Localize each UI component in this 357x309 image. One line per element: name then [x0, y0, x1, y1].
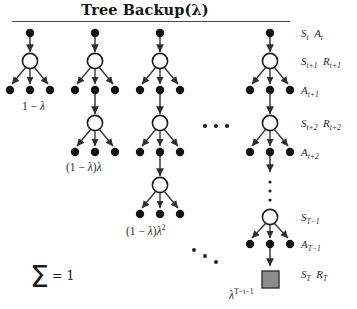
vertical-ellipsis-dot [268, 180, 271, 183]
sum-equals-value: = 1 [49, 268, 74, 283]
state-circle [152, 53, 167, 68]
leaf-dot [111, 86, 119, 94]
tree-column-2 [71, 29, 119, 156]
weight-label-1: 1 − λ [22, 100, 45, 112]
label-state-T1: ST−1 [301, 211, 320, 226]
tree-column-last [246, 29, 294, 288]
state-circle [87, 53, 102, 68]
state-circle [87, 115, 102, 130]
leaf-dot [156, 86, 164, 94]
leaf-dot [246, 148, 254, 156]
horizontal-ellipsis [203, 124, 229, 128]
weight-label-3: (1 − λ)λ2 [126, 223, 166, 237]
root-dot [91, 29, 99, 37]
label-action-t1: At+1 [301, 84, 319, 99]
terminal-square [262, 271, 279, 288]
weight-label-2: (1 − λ)λ [66, 161, 102, 173]
state-circle [152, 177, 167, 192]
label-action-t2: At+2 [301, 146, 319, 161]
label-state-reward-t2: St+2 Rt+2 [301, 117, 341, 132]
diagonal-ellipsis [192, 248, 218, 264]
leaf-dot [156, 148, 164, 156]
sigma-symbol: Σ [30, 259, 49, 294]
vertical-ellipsis-dot [268, 189, 271, 192]
label-action-T1: AT−1 [301, 238, 321, 253]
leaf-dot [266, 86, 274, 94]
leaf-dot [266, 240, 274, 248]
tree-column-3 [136, 29, 184, 218]
leaf-dot [71, 86, 79, 94]
state-circle [262, 209, 277, 224]
label-state-reward-T: ST RT [301, 268, 327, 283]
label-state-action-t: St At [301, 27, 323, 42]
leaf-dot [111, 148, 119, 156]
leaf-dot [91, 148, 99, 156]
root-dot [156, 29, 164, 37]
leaf-dot [156, 210, 164, 218]
sum-annotation: Σ= 1 [30, 262, 74, 292]
state-circle [262, 53, 277, 68]
leaf-dot [176, 210, 184, 218]
leaf-dot [136, 86, 144, 94]
leaf-dot [26, 86, 34, 94]
tree-column-1 [6, 29, 54, 94]
leaf-dot [176, 86, 184, 94]
leaf-dot [176, 148, 184, 156]
leaf-dot [136, 148, 144, 156]
leaf-dot [6, 86, 14, 94]
label-state-reward-t1: St+1 Rt+1 [301, 55, 341, 70]
leaf-dot [266, 148, 274, 156]
leaf-dot [286, 148, 294, 156]
state-circle [22, 53, 37, 68]
leaf-dot [286, 240, 294, 248]
leaf-dot [71, 148, 79, 156]
tree-backup-figure: Tree Backup(λ) [0, 0, 357, 309]
root-dot [26, 29, 34, 37]
leaf-dot [91, 86, 99, 94]
weight-label-terminal: λT−t−1 [229, 287, 254, 301]
leaf-dot [286, 86, 294, 94]
leaf-dot [246, 240, 254, 248]
leaf-dot [246, 86, 254, 94]
vertical-ellipsis-dot [268, 198, 271, 201]
root-dot [266, 29, 274, 37]
leaf-dot [46, 86, 54, 94]
state-circle [262, 115, 277, 130]
state-circle [152, 115, 167, 130]
leaf-dot [136, 210, 144, 218]
